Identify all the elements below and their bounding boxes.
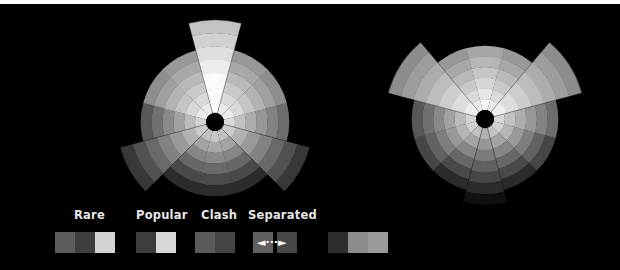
wheel-cell <box>201 162 229 175</box>
wheel-cell <box>472 67 499 79</box>
wheel-cell <box>204 152 226 164</box>
wheel-cell <box>525 106 537 133</box>
color-wheels-diagram <box>0 0 620 270</box>
swatch-extra <box>328 232 348 253</box>
wheel-cell <box>198 172 231 185</box>
swatch-clash <box>195 232 215 253</box>
legend-label-clash: Clash <box>201 208 237 222</box>
wheel-cell <box>474 78 496 90</box>
wheel-cell <box>514 108 526 130</box>
extended-wedge-cell <box>199 60 231 75</box>
wheel-cell <box>265 106 278 139</box>
swatch-popular <box>156 232 176 253</box>
wheel-cell <box>535 103 548 136</box>
swatch-popular <box>136 232 156 253</box>
extended-wedge-cell <box>474 149 496 161</box>
wheel-cell <box>245 111 257 133</box>
center-hole <box>476 110 494 128</box>
extended-wedge-cell <box>195 46 234 62</box>
swatch-rare <box>95 232 115 253</box>
left-color-wheel <box>120 20 310 197</box>
swatch-rare <box>75 232 95 253</box>
swatch-extra <box>368 232 388 253</box>
swatch-extra <box>348 232 368 253</box>
extended-wedge-cell <box>471 160 499 173</box>
wheel-cell <box>444 108 456 130</box>
legend-label-rare: Rare <box>74 208 105 222</box>
wheel-cell <box>433 105 445 132</box>
extended-wedge-cell <box>202 73 227 88</box>
wheel-cell <box>469 56 502 69</box>
right-color-wheel <box>388 42 582 205</box>
double-arrow-icon: ◄···► <box>257 236 286 249</box>
swatch-rare <box>55 232 75 253</box>
legend-label-separated: Separated <box>248 208 317 222</box>
wheel-cell <box>173 111 185 133</box>
center-hole <box>206 113 224 131</box>
wheel-cell <box>422 102 435 135</box>
swatch-clash <box>215 232 235 253</box>
extended-wedge-cell <box>468 170 501 183</box>
legend-label-popular: Popular <box>136 208 188 222</box>
wheel-cell <box>162 108 175 136</box>
wheel-cell <box>152 105 165 138</box>
wheel-cell <box>255 108 268 136</box>
